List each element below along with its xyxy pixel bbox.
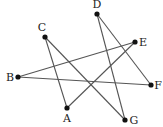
point-label-g: G: [130, 114, 139, 127]
point-g: [122, 117, 127, 122]
point-a: [64, 105, 69, 110]
point-e: [132, 39, 137, 44]
point-f: [148, 82, 153, 87]
point-label-c: C: [38, 21, 46, 34]
points-group: [15, 11, 153, 122]
labels-group: ABCDEFG: [6, 0, 162, 127]
edge-d-g: [97, 14, 125, 120]
point-label-a: A: [62, 112, 72, 125]
star-diagram: ABCDEFG: [0, 0, 163, 127]
edge-f-d: [97, 14, 151, 85]
point-d: [94, 11, 99, 16]
point-c: [42, 34, 47, 39]
point-b: [15, 74, 20, 79]
point-label-e: E: [139, 36, 147, 49]
edge-g-c: [45, 37, 125, 120]
point-label-f: F: [154, 79, 162, 92]
point-label-b: B: [6, 71, 14, 84]
point-label-d: D: [93, 0, 102, 11]
